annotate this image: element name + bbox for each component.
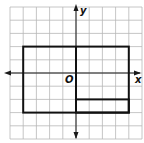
y-axis-label: y bbox=[80, 5, 87, 16]
origin-label: O bbox=[65, 74, 74, 85]
y-axis-down-arrow-icon bbox=[74, 132, 79, 139]
coordinate-plane: x y O bbox=[0, 0, 144, 143]
x-axis-left-arrow-icon bbox=[4, 71, 11, 76]
axes bbox=[4, 4, 141, 139]
rectangles bbox=[23, 47, 129, 113]
x-axis-label: x bbox=[134, 74, 142, 85]
y-axis-up-arrow-icon bbox=[74, 4, 79, 11]
